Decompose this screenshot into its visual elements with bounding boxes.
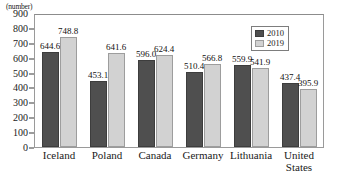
bar-2010: 453.1 — [90, 81, 107, 147]
legend-label-2019: 2019 — [267, 39, 284, 48]
y-tick-mark — [29, 43, 34, 44]
bar-value-label: 541.9 — [250, 58, 270, 67]
y-tick-label: 600 — [13, 54, 28, 64]
x-axis-labels: IcelandPolandCanadaGermanyLithuaniaUnite… — [35, 150, 323, 173]
bar-value-label: 644.6 — [40, 42, 60, 51]
bar-chart: (number) 900 800 700 600 500 400 300 200… — [0, 0, 337, 195]
y-tick-label: 300 — [13, 98, 28, 108]
bar-2010: 437.4 — [282, 83, 299, 147]
legend-item-2010: 2010 — [255, 29, 284, 38]
x-axis-label: Canada — [131, 150, 179, 173]
legend-item-2019: 2019 — [255, 39, 284, 48]
y-tick-mark — [29, 28, 34, 29]
bar-2019: 395.9 — [300, 89, 317, 147]
bar-group: 644.6748.8 — [35, 15, 83, 147]
y-tick-label: 0 — [23, 143, 28, 153]
y-tick-label: 100 — [13, 128, 28, 138]
bar-value-label: 510.4 — [184, 62, 204, 71]
bar-2019: 624.4 — [156, 55, 173, 147]
bar-value-label: 641.6 — [106, 43, 126, 52]
y-tick-mark — [29, 88, 34, 89]
y-tick-label: 200 — [13, 113, 28, 123]
y-tick-label: 700 — [13, 39, 28, 49]
x-axis-label: Lithuania — [227, 150, 275, 173]
y-tick-mark — [29, 118, 34, 119]
legend-label-2010: 2010 — [267, 29, 284, 38]
x-axis-label: Poland — [83, 150, 131, 173]
bar-2010: 510.4 — [186, 72, 203, 147]
x-axis-label: United States — [275, 150, 323, 173]
y-tick-mark — [29, 148, 34, 149]
bar-2019: 566.8 — [204, 64, 221, 147]
y-tick-mark — [29, 58, 34, 59]
bar-2019: 748.8 — [60, 37, 77, 147]
y-tick-mark — [29, 133, 34, 134]
legend-swatch-2019 — [255, 40, 264, 47]
bar-value-label: 395.9 — [298, 79, 318, 88]
bar-2010: 596.0 — [138, 60, 155, 147]
bar-value-label: 453.1 — [88, 71, 108, 80]
bar-2010: 644.6 — [42, 52, 59, 147]
bar-group: 510.4566.8 — [179, 15, 227, 147]
x-axis-label: Iceland — [35, 150, 83, 173]
bar-2019: 541.9 — [252, 68, 269, 147]
y-tick-mark — [29, 73, 34, 74]
legend: 2010 2019 — [251, 26, 289, 51]
y-tick-label: 900 — [13, 9, 28, 19]
y-tick-label: 500 — [13, 69, 28, 79]
y-tick-label: 400 — [13, 83, 28, 93]
bar-group: 453.1641.6 — [83, 15, 131, 147]
y-tick-label: 800 — [13, 24, 28, 34]
bar-2010: 559.9 — [234, 65, 251, 147]
legend-swatch-2010 — [255, 30, 264, 37]
y-axis: 900 800 700 600 500 400 300 200 100 0 — [0, 14, 34, 148]
bar-value-label: 748.8 — [58, 27, 78, 36]
bar-group: 596.0624.4 — [131, 15, 179, 147]
bar-2019: 641.6 — [108, 53, 125, 147]
bar-value-label: 566.8 — [202, 54, 222, 63]
bar-value-label: 624.4 — [154, 45, 174, 54]
y-tick-mark — [29, 103, 34, 104]
x-axis-label: Germany — [179, 150, 227, 173]
